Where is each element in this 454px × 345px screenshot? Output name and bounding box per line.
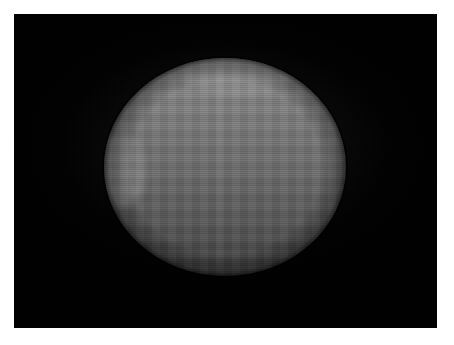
disk-object xyxy=(104,58,346,276)
photograph-field xyxy=(14,14,437,328)
photo-frame xyxy=(0,0,454,345)
disk-limb-irregularity xyxy=(104,58,346,276)
